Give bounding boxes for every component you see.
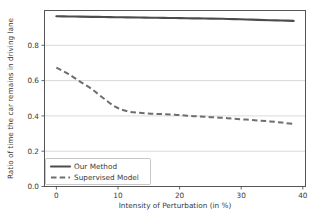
y-tick-label: 0.4 bbox=[27, 112, 39, 121]
x-tick-label: 0 bbox=[54, 191, 59, 200]
y-axis-label: Ratio of time the car remains in driving… bbox=[6, 17, 15, 179]
x-tick-label: 20 bbox=[175, 191, 185, 200]
y-tick-label: 0.0 bbox=[27, 182, 39, 191]
y-tick-label: 0.6 bbox=[27, 76, 39, 85]
x-tick-label: 10 bbox=[113, 191, 123, 200]
legend-label-supervised-model: Supervised Model bbox=[74, 173, 139, 182]
legend-label-our-method: Our Method bbox=[74, 162, 117, 171]
x-tick-label: 40 bbox=[298, 191, 308, 200]
chart-figure: 0.8 0.6 0.4 0.2 0.0 0 10 20 30 40 Intens… bbox=[0, 0, 320, 215]
line-chart-canvas: 0.8 0.6 0.4 0.2 0.0 0 10 20 30 40 Intens… bbox=[0, 0, 320, 215]
y-tick-label: 0.8 bbox=[27, 41, 39, 50]
x-axis-label: Intensity of Perturbation (in %) bbox=[119, 201, 232, 210]
y-tick-label: 0.2 bbox=[27, 147, 39, 156]
chart-legend[interactable]: Our Method Supervised Model bbox=[46, 159, 151, 185]
x-tick-label: 30 bbox=[237, 191, 247, 200]
